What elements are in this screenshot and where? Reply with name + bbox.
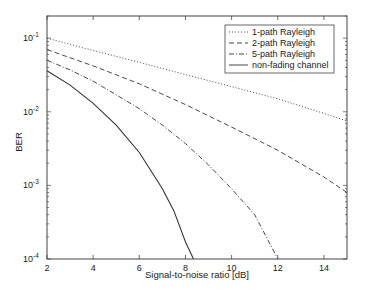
y-tick-exponent: -1 xyxy=(33,31,39,38)
y-tick-label: 10-1 xyxy=(23,31,39,43)
y-tick-label: 10-4 xyxy=(23,252,39,264)
ber-chart: 2468101214 10-110-210-310-4 Signal-to-no… xyxy=(0,0,366,296)
legend-label: non-fading channel xyxy=(252,60,329,70)
legend: 1-path Rayleigh2-path Rayleigh5-path Ray… xyxy=(225,25,334,73)
legend-label: 5-path Rayleigh xyxy=(252,49,315,59)
x-tick-label: 2 xyxy=(44,263,49,273)
x-tick-label: 4 xyxy=(91,263,96,273)
y-tick-exponent: -4 xyxy=(33,252,39,259)
series-line-3 xyxy=(47,60,278,259)
x-tick-label: 12 xyxy=(273,263,283,273)
y-tick-base: 10 xyxy=(23,107,33,117)
y-tick-exponent: -3 xyxy=(33,178,39,185)
y-tick-base: 10 xyxy=(23,33,33,43)
legend-label: 2-path Rayleigh xyxy=(252,38,315,48)
y-axis-label: BER xyxy=(13,132,24,152)
y-tick-label: 10-3 xyxy=(23,178,39,190)
legend-label: 1-path Rayleigh xyxy=(252,27,315,37)
y-tick-base: 10 xyxy=(23,180,33,190)
x-tick-label: 6 xyxy=(137,263,142,273)
y-tick-label: 10-2 xyxy=(23,105,39,117)
series-line-4 xyxy=(47,71,194,259)
x-axis-label: Signal-to-noise ratio [dB] xyxy=(145,269,249,280)
y-tick-exponent: -2 xyxy=(33,105,39,112)
x-tick-label: 14 xyxy=(319,263,329,273)
y-tick-base: 10 xyxy=(23,254,33,264)
